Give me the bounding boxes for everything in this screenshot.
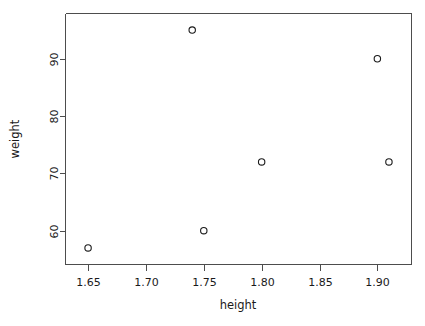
data-point (386, 159, 392, 165)
plot-border (66, 14, 412, 265)
data-point (85, 245, 91, 251)
y-axis: 60708090 (48, 53, 66, 239)
y-tick-label: 60 (48, 225, 61, 239)
data-points-layer (85, 27, 392, 251)
y-tick-label: 80 (48, 110, 61, 124)
x-tick-label: 1.65 (76, 276, 101, 289)
data-point (189, 27, 195, 33)
x-tick-label: 1.80 (250, 276, 275, 289)
y-tick-label: 90 (48, 53, 61, 67)
plot-box-frame (66, 14, 412, 265)
x-axis-title: height (220, 298, 257, 312)
x-tick-label: 1.75 (192, 276, 217, 289)
x-tick-label: 1.70 (134, 276, 159, 289)
y-axis-title: weight (8, 119, 22, 158)
x-axis: 1.651.701.751.801.851.90 (76, 265, 390, 290)
plot-canvas: 60708090 1.651.701.751.801.851.90 height… (0, 0, 425, 326)
data-point (258, 159, 264, 165)
x-tick-label: 1.90 (365, 276, 390, 289)
scatter-plot-figure: 60708090 1.651.701.751.801.851.90 height… (0, 0, 425, 326)
data-point (201, 227, 207, 233)
data-point (374, 56, 380, 62)
y-tick-label: 70 (48, 167, 61, 181)
x-tick-label: 1.85 (308, 276, 333, 289)
